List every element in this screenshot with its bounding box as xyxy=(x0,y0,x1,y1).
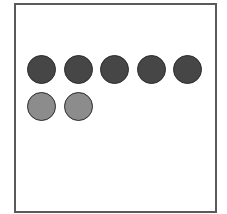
dark-row-circle xyxy=(137,55,166,84)
dark-row-circle xyxy=(27,55,56,84)
dark-row-circle xyxy=(64,55,93,84)
dark-row-circle xyxy=(100,55,129,84)
light-row-circle xyxy=(27,92,56,121)
light-row-circle xyxy=(64,92,93,121)
dark-row-circle xyxy=(173,55,202,84)
